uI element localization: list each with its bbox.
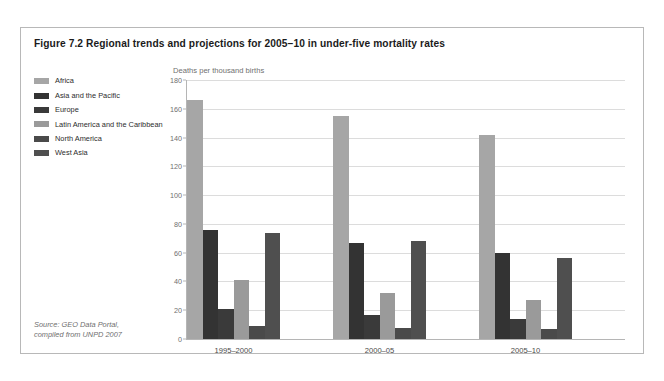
legend-item[interactable]: Europe <box>34 103 169 117</box>
bar[interactable] <box>364 315 380 339</box>
bar[interactable] <box>557 258 573 339</box>
y-tick-label: 40 <box>174 277 182 286</box>
legend-swatch-icon <box>34 93 49 99</box>
y-tick-label: 180 <box>170 76 182 85</box>
bar[interactable] <box>349 243 365 339</box>
legend-item[interactable]: West Asia <box>34 146 169 160</box>
bar[interactable] <box>234 280 250 339</box>
x-tick-label: 2000–05 <box>365 346 395 355</box>
legend-item-label: Europe <box>55 106 79 113</box>
legend-item-label: West Asia <box>55 149 88 156</box>
legend-item[interactable]: North America <box>34 132 169 146</box>
bar[interactable] <box>411 241 427 339</box>
legend-item-label: North America <box>55 135 102 142</box>
bar[interactable] <box>218 309 234 339</box>
bar[interactable] <box>526 300 542 339</box>
y-axis-title: Deaths per thousand births <box>173 66 264 75</box>
plot-area: 020406080100120140160180 1995–20002000–0… <box>186 80 625 339</box>
y-tick-label: 100 <box>170 191 182 200</box>
legend-swatch-icon <box>34 121 49 127</box>
y-tick-label: 140 <box>170 133 182 142</box>
x-tick-label: 1995–2000 <box>214 346 252 355</box>
legend-swatch-icon <box>34 136 49 142</box>
bar[interactable] <box>265 233 281 339</box>
page-title: Figure 7.2 Regional trends and projectio… <box>34 38 445 49</box>
y-tick-label: 0 <box>178 335 182 344</box>
y-tick-label: 160 <box>170 104 182 113</box>
source-note: Source: GEO Data Portal, compiled from U… <box>34 320 122 341</box>
bar-group: 1995–2000 <box>187 80 333 339</box>
bar[interactable] <box>495 253 511 339</box>
gridline <box>186 339 625 340</box>
bar-groups: 1995–20002000–052005–10 <box>187 80 625 339</box>
bar-group-bars <box>187 80 333 339</box>
bar[interactable] <box>541 329 557 339</box>
bar-group: 2000–05 <box>333 80 479 339</box>
bar[interactable] <box>249 326 265 339</box>
legend-swatch-icon <box>34 107 49 113</box>
bar-group: 2005–10 <box>479 80 625 339</box>
legend-item[interactable]: Africa <box>34 74 169 88</box>
figure-card: Figure 7.2 Regional trends and projectio… <box>20 27 644 354</box>
legend-item-label: Asia and the Pacific <box>55 92 120 99</box>
legend-item-label: Latin America and the Caribbean <box>55 121 163 128</box>
legend-item-label: Africa <box>55 77 74 84</box>
bar[interactable] <box>380 293 396 339</box>
y-tick-label: 60 <box>174 248 182 257</box>
bar-group-bars <box>479 80 625 339</box>
chart-legend: AfricaAsia and the PacificEuropeLatin Am… <box>34 74 169 160</box>
bar[interactable] <box>479 135 495 339</box>
bar-group-bars <box>333 80 479 339</box>
legend-swatch-icon <box>34 78 49 84</box>
y-tick-label: 80 <box>174 219 182 228</box>
x-tick-label: 2005–10 <box>511 346 541 355</box>
bar[interactable] <box>510 319 526 339</box>
legend-item[interactable]: Asia and the Pacific <box>34 88 169 102</box>
bar[interactable] <box>187 100 203 339</box>
legend-swatch-icon <box>34 150 49 156</box>
bar[interactable] <box>203 230 219 339</box>
bar[interactable] <box>333 116 349 339</box>
bar[interactable] <box>395 328 411 340</box>
legend-item[interactable]: Latin America and the Caribbean <box>34 117 169 131</box>
y-tick-label: 20 <box>174 306 182 315</box>
y-tick-label: 120 <box>170 162 182 171</box>
